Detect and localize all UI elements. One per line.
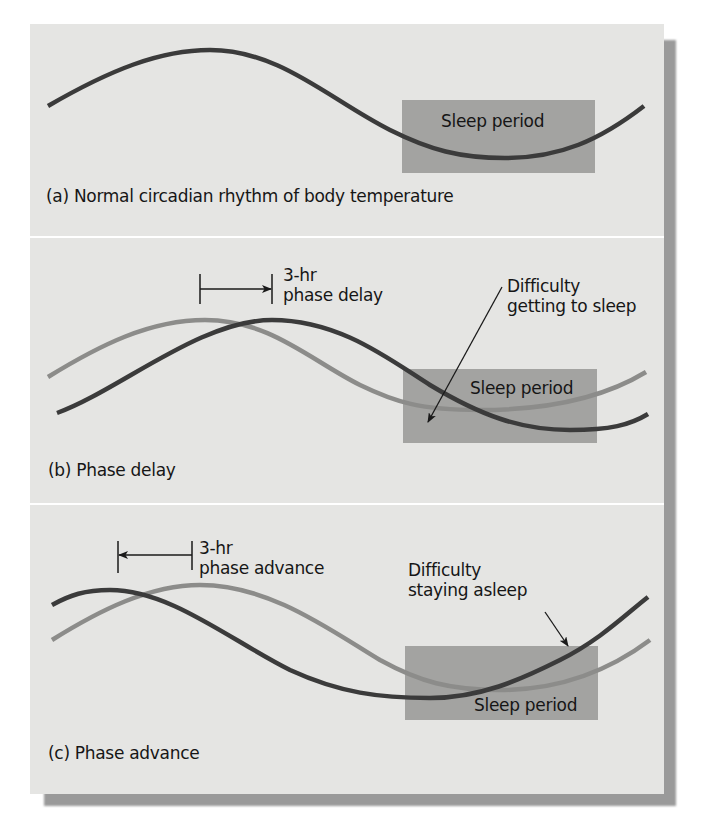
- phase-delay-label-line1: 3-hr: [283, 265, 383, 285]
- sleep-period-label-a: Sleep period: [441, 111, 544, 131]
- phase-advance-label-line2: phase advance: [199, 558, 324, 578]
- phase-delay-label-line2: phase delay: [283, 285, 383, 305]
- callout-b-line2: getting to sleep: [507, 296, 636, 316]
- callout-b-line1: Difficulty: [507, 276, 636, 296]
- phase-advance-label-line1: 3-hr: [199, 538, 324, 558]
- caption-c: (c) Phase advance: [48, 743, 199, 763]
- caption-b: (b) Phase delay: [48, 460, 176, 480]
- callout-c-line2: staying asleep: [408, 580, 527, 600]
- difficulty-getting-to-sleep-label: Difficulty getting to sleep: [507, 276, 636, 316]
- sleep-period-label-b: Sleep period: [470, 378, 573, 398]
- sleep-period-label-c: Sleep period: [474, 695, 577, 715]
- phase-delay-label: 3-hr phase delay: [283, 265, 383, 305]
- difficulty-staying-asleep-label: Difficulty staying asleep: [408, 560, 527, 600]
- caption-a: (a) Normal circadian rhythm of body temp…: [46, 186, 453, 206]
- callout-c-line1: Difficulty: [408, 560, 527, 580]
- phase-advance-label: 3-hr phase advance: [199, 538, 324, 578]
